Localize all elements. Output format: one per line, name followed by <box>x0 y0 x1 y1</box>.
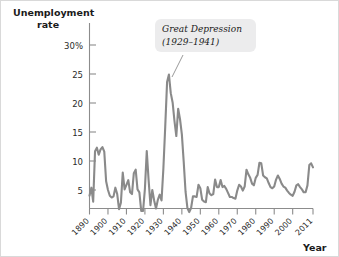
y-tick-label-25: 25 <box>72 70 83 80</box>
y-tick-label-10: 10 <box>72 157 83 167</box>
y-tick-label-20: 20 <box>72 99 83 109</box>
x-tick-label-1970: 1970 <box>218 217 239 238</box>
y-axis-title-line1: Unemployment <box>13 7 95 18</box>
annotation-text-line1: Great Depression <box>162 24 242 34</box>
y-tick-label-30: 30% <box>64 41 83 51</box>
x-axis-tick-labels: 1890190019101920193019401950196019701980… <box>70 217 314 238</box>
x-tick-label-1930: 1930 <box>144 217 165 238</box>
x-tick-label-1910: 1910 <box>107 217 128 238</box>
x-tick-label-2011: 2011 <box>294 217 315 238</box>
x-tick-label-1950: 1950 <box>181 217 202 238</box>
x-axis-ticks <box>90 209 314 215</box>
annotation-leader-line <box>172 55 183 77</box>
x-tick-label-2000: 2000 <box>273 217 294 238</box>
x-tick-label-1900: 1900 <box>89 217 110 238</box>
chart-figure: Unemployment rate Year 30% 25 20 15 10 5… <box>0 0 339 257</box>
y-axis-title-line2: rate <box>37 19 59 30</box>
x-tick-label-1920: 1920 <box>126 217 147 238</box>
annotation-text-line2: (1929–1941) <box>162 37 220 47</box>
unemployment-rate-line <box>90 75 314 212</box>
y-tick-label-5: 5 <box>78 186 83 196</box>
x-tick-label-1990: 1990 <box>255 217 276 238</box>
x-axis-title: Year <box>302 242 327 253</box>
chart-canvas: Unemployment rate Year 30% 25 20 15 10 5… <box>1 1 339 257</box>
x-tick-label-1940: 1940 <box>163 217 184 238</box>
x-tick-label-1980: 1980 <box>236 217 257 238</box>
y-tick-label-15: 15 <box>72 128 83 138</box>
x-tick-label-1960: 1960 <box>199 217 220 238</box>
x-tick-label-1890: 1890 <box>70 217 91 238</box>
